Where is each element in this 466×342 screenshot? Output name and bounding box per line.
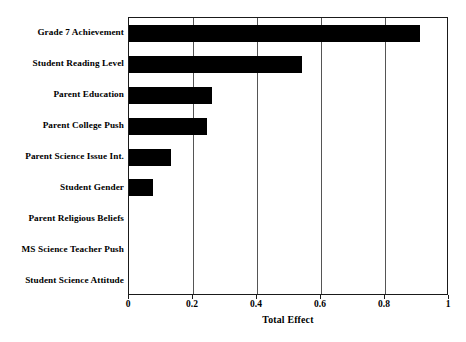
x-tick-label: 0.4 bbox=[250, 299, 262, 309]
category-label: Parent College Push bbox=[0, 120, 124, 130]
category-label: Student Science Attitude bbox=[0, 275, 124, 285]
x-tick-label: 0.2 bbox=[186, 299, 198, 309]
x-tick-label: 1 bbox=[446, 299, 451, 309]
x-axis-title: Total Effect bbox=[128, 314, 448, 325]
x-tick-label: 0.8 bbox=[378, 299, 390, 309]
category-label: Student Reading Level bbox=[0, 58, 124, 68]
bars-layer bbox=[129, 18, 447, 294]
category-label: Grade 7 Achievement bbox=[0, 27, 124, 37]
category-label: Parent Religious Beliefs bbox=[0, 213, 124, 223]
category-label: Parent Education bbox=[0, 89, 124, 99]
bar bbox=[129, 118, 207, 135]
category-axis-labels: Grade 7 AchievementStudent Reading Level… bbox=[0, 17, 124, 295]
bar bbox=[129, 56, 302, 73]
x-tick-label: 0 bbox=[126, 299, 131, 309]
category-label: MS Science Teacher Push bbox=[0, 244, 124, 254]
plot-area bbox=[128, 17, 448, 295]
bar bbox=[129, 87, 212, 104]
x-axis-title-text: Total Effect bbox=[262, 314, 313, 325]
bar bbox=[129, 179, 153, 196]
bar bbox=[129, 25, 420, 42]
x-tick-label: 0.6 bbox=[314, 299, 326, 309]
category-label: Student Gender bbox=[0, 182, 124, 192]
bar-chart: Grade 7 AchievementStudent Reading Level… bbox=[0, 0, 466, 342]
category-label: Parent Science Issue Int. bbox=[0, 151, 124, 161]
bar bbox=[129, 149, 171, 166]
